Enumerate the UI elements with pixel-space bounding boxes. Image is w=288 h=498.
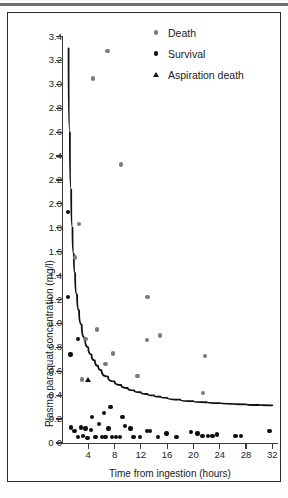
aspiration-death-point — [85, 377, 91, 382]
y-axis-title-host: Plasma paraquat concentration (mg/l) — [18, 110, 32, 370]
death-point — [95, 327, 99, 331]
death-point — [83, 337, 87, 341]
survival-point — [108, 405, 112, 409]
y-axis-title: Plasma paraquat concentration (mg/l) — [44, 229, 55, 459]
death-point — [203, 354, 207, 358]
survival-point — [189, 430, 193, 434]
legend-label-survival: Survival — [168, 48, 205, 60]
x-tick-label: 16 — [154, 449, 180, 460]
legend-item-death: Death — [148, 22, 244, 43]
x-tick-label: 28 — [233, 449, 259, 460]
survival-point — [76, 435, 80, 439]
survival-point — [233, 434, 237, 438]
x-tick-label: 4 — [75, 449, 101, 460]
death-point — [103, 362, 107, 366]
legend-label-aspiration: Aspiration death — [168, 69, 244, 81]
survival-point — [138, 435, 142, 439]
death-point — [145, 338, 149, 342]
survival-point — [118, 435, 122, 439]
death-point — [77, 222, 81, 226]
x-tick-label: 24 — [207, 449, 233, 460]
survival-point — [103, 435, 107, 439]
death-point — [158, 333, 162, 337]
y-tick-label: 3.2 — [18, 55, 62, 65]
survival-point — [123, 424, 127, 428]
y-tick-label: 0.2 — [18, 414, 62, 424]
survival-point — [164, 431, 168, 435]
survival-point — [68, 352, 72, 356]
survival-dot-icon — [148, 51, 164, 56]
survival-point — [120, 415, 124, 419]
survival-point — [102, 411, 106, 415]
legend-item-survival: Survival — [148, 43, 244, 64]
survival-point — [267, 429, 271, 433]
survival-point — [66, 295, 70, 299]
y-tick-label: 0.4 — [18, 390, 62, 400]
y-tick-label-text: 3.2 — [28, 55, 62, 65]
death-point — [201, 391, 205, 395]
survival-point — [97, 422, 101, 426]
x-tick-label: 12 — [128, 449, 154, 460]
survival-point — [128, 426, 132, 430]
survival-point — [76, 337, 80, 341]
survival-point — [131, 435, 135, 439]
y-axis-line — [62, 36, 63, 444]
survival-point — [148, 429, 152, 433]
x-tick-label: 8 — [102, 449, 128, 460]
survival-point — [85, 436, 89, 440]
death-point — [73, 255, 77, 259]
aspiration-triangle-icon — [148, 72, 164, 77]
y-tick-label-text: 2.4 — [28, 151, 62, 161]
survival-point — [195, 431, 199, 435]
death-point — [145, 295, 149, 299]
x-tick-label: 20 — [180, 449, 206, 460]
death-point — [105, 49, 109, 53]
death-point — [80, 377, 84, 381]
survival-point — [174, 435, 178, 439]
y-tick-label-text: 3.0 — [28, 79, 62, 89]
y-tick-label-text: 2.8 — [28, 103, 62, 113]
survival-point — [210, 434, 214, 438]
survival-point — [93, 435, 97, 439]
y-tick-label-text: 2.2 — [28, 175, 62, 185]
x-axis-title: Time from ingestion (hours) — [62, 468, 278, 479]
survival-point — [66, 210, 70, 214]
death-dot-icon — [148, 30, 164, 35]
death-point — [119, 162, 123, 166]
survival-point — [106, 426, 110, 430]
figure-page: 00.20.40.60.81.01.21.41.61.82.02.22.42.6… — [0, 0, 288, 498]
y-tick-label: 3.0 — [18, 79, 62, 89]
survival-point — [215, 432, 219, 436]
y-tick-label-text: 3.4 — [28, 32, 62, 42]
survival-point — [239, 434, 243, 438]
y-tick-label-text: 2.6 — [28, 127, 62, 137]
legend-item-aspiration: Aspiration death — [148, 64, 244, 85]
survival-point — [83, 426, 87, 430]
survival-point — [72, 429, 76, 433]
survival-point — [90, 415, 94, 419]
death-point — [111, 351, 115, 355]
death-point — [91, 76, 95, 80]
plot-area: 00.20.40.60.81.01.21.41.61.82.02.22.42.6… — [0, 0, 288, 498]
survival-point — [200, 434, 204, 438]
survival-point — [89, 428, 93, 432]
survival-point — [156, 435, 160, 439]
legend: Death Survival Aspiration death — [148, 22, 244, 85]
y-tick-label-text: 2.0 — [28, 199, 62, 209]
legend-label-death: Death — [168, 27, 196, 39]
x-tick-label: 32 — [259, 449, 285, 460]
death-point — [135, 374, 139, 378]
y-tick-label: 3.4 — [18, 32, 62, 42]
